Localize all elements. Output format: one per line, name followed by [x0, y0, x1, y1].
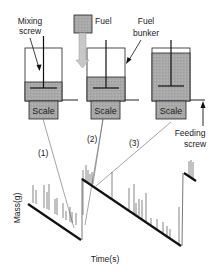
- callout-2: (2): [87, 134, 98, 144]
- mass-time-graph: Mass(g) Time(s): [12, 160, 196, 264]
- scale-1-label: Scale: [32, 106, 55, 116]
- bunker-3: Scale: [152, 40, 205, 119]
- y-axis-label: Mass(g): [12, 192, 22, 223]
- scale-3-label: Scale: [160, 106, 183, 116]
- scale-2-label: Scale: [94, 106, 117, 116]
- callout-1: (1): [38, 148, 49, 158]
- fuel-bunker-label-line1: Fuel: [138, 16, 155, 26]
- fuel-label: Fuel: [95, 16, 112, 26]
- callout-3: (3): [129, 138, 140, 148]
- mixing-screw-label-line1: Mixing: [18, 16, 43, 26]
- arrow-head-icon: [126, 57, 132, 64]
- feeding-screw-label-line1: Feeding: [175, 128, 206, 138]
- fuel-bunker-label-line2: bunker: [133, 28, 159, 38]
- x-axis-label: Time(s): [91, 254, 120, 264]
- arrow-up-icon: [201, 101, 206, 108]
- fuel-hopper: [74, 15, 92, 33]
- feeding-screw-label-line2: screw: [184, 139, 207, 149]
- bunker-2: Scale: [87, 40, 139, 119]
- leader-lines: [43, 119, 171, 228]
- fuel-feeding-diagram: Scale Mixing screw Scale Fuel Fuel bunke…: [0, 0, 219, 276]
- mixing-screw-label-line2: screw: [19, 26, 42, 36]
